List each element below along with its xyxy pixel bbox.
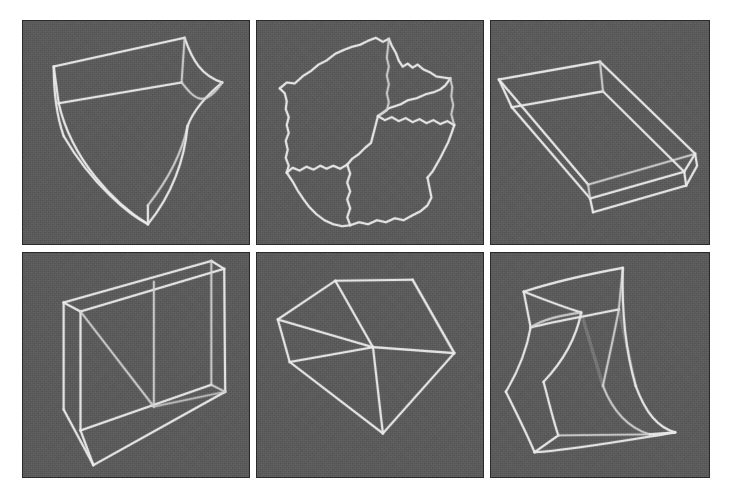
wire-halo-group (280, 38, 454, 226)
wire-halo-group (499, 62, 697, 213)
open-top-bin-wireframe (23, 253, 249, 477)
noisy-irregular-cube-wireframe (257, 21, 483, 244)
wireframe-figure-grid (22, 20, 710, 478)
panel-open-top-bin (22, 252, 250, 478)
hourglass-curved-box-wireframe (491, 253, 709, 477)
skewed-polyhedron-wireframe (257, 253, 483, 477)
panel-skewed-polyhedron (256, 252, 484, 478)
open-shallow-tray-wireframe (491, 21, 709, 244)
wire-halo-group (54, 38, 223, 224)
wire-line-group (278, 280, 454, 434)
tapered-curved-box-wireframe (23, 21, 249, 244)
panel-open-shallow-tray (490, 20, 710, 245)
wire-line-group (64, 261, 226, 465)
wire-line-group (280, 38, 454, 226)
panel-hourglass-curved-box (490, 252, 710, 478)
wire-line-group (506, 268, 675, 452)
panel-tapered-curved-box (22, 20, 250, 245)
panel-noisy-irregular-cube (256, 20, 484, 245)
